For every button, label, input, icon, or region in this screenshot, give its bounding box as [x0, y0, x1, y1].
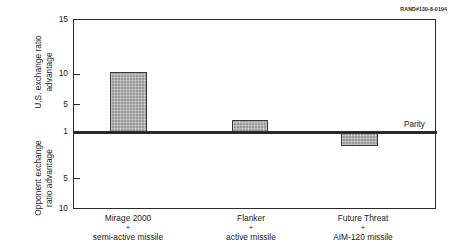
bar-future-threat — [341, 132, 378, 146]
ytick-label-upper-1: 1 — [52, 126, 68, 136]
xcat-mirage-2000: Mirage 2000 + semi-active missile — [60, 213, 196, 243]
xcat-future-threat-plus: + — [300, 224, 426, 232]
ytick-mark-upper-5 — [73, 104, 80, 105]
xcat-mirage-2000-line2: semi-active missile — [60, 232, 196, 243]
ytick-mark-lower-5 — [73, 178, 80, 179]
xcat-flanker-line2: active missile — [192, 232, 310, 243]
rand-source-code: RAND#130-8-0194 — [400, 6, 447, 12]
exchange-ratio-bar-chart: RAND#130-8-0194 15 10 5 1 5 10 U.S. exch… — [0, 0, 461, 250]
xcat-future-threat-line2: AIM-120 missile — [300, 232, 426, 243]
xcat-mirage-2000-plus: + — [60, 224, 196, 232]
ytick-label-lower-10: 10 — [52, 203, 68, 213]
ytick-label-upper-15: 15 — [52, 14, 68, 24]
ytick-label-upper-10: 10 — [52, 68, 68, 78]
xcat-flanker: Flanker + active missile — [192, 213, 310, 243]
ytick-label-upper-5: 5 — [52, 99, 68, 109]
xcat-future-threat: Future Threat + AIM-120 missile — [300, 213, 426, 243]
xcat-flanker-plus: + — [192, 224, 310, 232]
parity-reference-line — [73, 131, 437, 134]
ytick-mark-upper-10 — [73, 74, 80, 75]
y-axis-title-lower-line1: Opponent exchange — [33, 128, 43, 228]
parity-label: Parity — [404, 120, 425, 129]
ytick-label-lower-5: 5 — [52, 173, 68, 183]
bar-mirage-2000 — [110, 72, 147, 133]
y-axis-title-upper-line1: U.S. exchange ratio — [33, 16, 43, 128]
